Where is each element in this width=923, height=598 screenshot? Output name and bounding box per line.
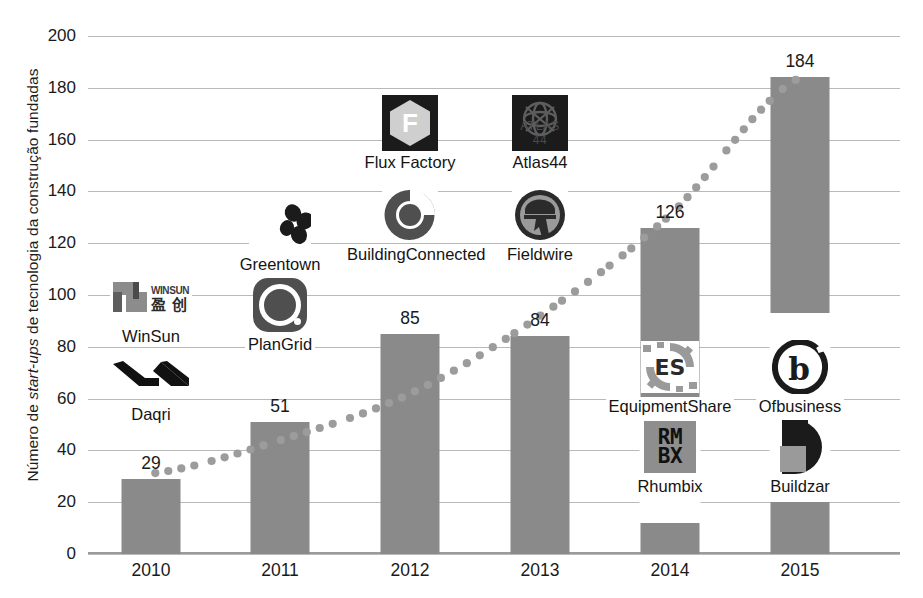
y-axis-tick-label: 0	[16, 544, 76, 564]
trend-dot	[329, 420, 337, 428]
bar-value-label: 85	[355, 308, 465, 329]
startup-chart: Número de start-ups de tecnologia da con…	[0, 0, 923, 598]
bar-value-label: 51	[225, 396, 335, 417]
bar-value-label: 84	[485, 310, 595, 331]
company-logo-ofbusiness: bOfbusiness	[734, 338, 866, 416]
trend-dot	[692, 183, 700, 191]
y-axis-tick-label: 40	[16, 440, 76, 460]
bar	[381, 334, 440, 554]
company-logo-caption: Rhumbix	[634, 477, 705, 496]
y-axis-tick-label: 60	[16, 389, 76, 409]
flux-factory-logo-icon: F	[344, 94, 476, 152]
plangrid-logo-icon	[214, 276, 346, 334]
y-axis-tick-label: 180	[16, 78, 76, 98]
trend-dot	[476, 351, 484, 359]
winsun-wordmark-en: WINSUN	[151, 285, 189, 296]
company-logo-plangrid: PlanGrid	[214, 276, 346, 354]
bar	[511, 336, 570, 554]
atlas44-logo-icon: ATLAS 44	[474, 94, 606, 152]
ofbusiness-logo-icon: b	[772, 340, 828, 394]
trend-dot	[208, 457, 216, 465]
rhumbix-logo-icon: RMBX	[644, 421, 696, 473]
company-logo-caption: Fieldwire	[504, 245, 576, 264]
x-axis-tick-label: 2012	[355, 560, 465, 581]
y-axis-tick-label: 80	[16, 337, 76, 357]
trend-dot	[709, 163, 717, 171]
flux-factory-logo-icon: F	[382, 95, 438, 151]
company-logo-equipmentshare: ESEquipmentShare	[604, 338, 736, 416]
trend-dot	[221, 453, 229, 461]
atlas44-logo-icon: ATLAS 44	[512, 95, 568, 151]
fieldwire-logo-icon	[474, 186, 606, 244]
bar-value-label: 184	[745, 51, 855, 72]
plot-area: 020406080100120140160180200 295185841261…	[88, 36, 900, 554]
bar	[251, 422, 310, 554]
winsun-logo-icon	[113, 282, 147, 312]
x-axis-tick-label: 2011	[225, 560, 335, 581]
x-axis-tick-label: 2014	[615, 560, 725, 581]
company-logo-caption: WinSun	[119, 327, 183, 346]
company-logo-greentown: Greentown	[214, 196, 346, 274]
trend-dot	[606, 262, 614, 270]
company-logo-atlas44: ATLAS 44Atlas44	[474, 94, 606, 172]
rhumbix-wordmark-line2: BX	[658, 444, 682, 468]
rhumbix-logo-icon: RMBX	[604, 418, 736, 476]
trend-dot	[558, 297, 566, 305]
company-logo-caption: EquipmentShare	[606, 397, 735, 416]
company-logo-buildzar: Buildzar	[734, 418, 866, 496]
bar-value-label: 126	[615, 202, 725, 223]
equipmentshare-logo-icon: ES	[604, 338, 736, 396]
trend-dot	[627, 244, 635, 252]
flux-factory-letter: F	[390, 100, 430, 146]
trend-dot	[584, 278, 592, 286]
company-logo-caption: Ofbusiness	[756, 397, 845, 416]
svg-text:ES: ES	[655, 355, 686, 380]
company-logo-caption: PlanGrid	[245, 335, 315, 354]
company-logo-rhumbix: RMBXRhumbix	[604, 418, 736, 496]
company-logo-buildingconnected: BuildingConnected	[344, 186, 476, 264]
trend-dot	[597, 268, 605, 276]
ofbusiness-logo-icon: b	[734, 338, 866, 396]
x-axis-tick-label: 2015	[745, 560, 855, 581]
fieldwire-logo-icon	[512, 187, 568, 243]
winsun-logo-icon: WINSUN盈 创	[85, 268, 217, 326]
greentown-logo-icon	[249, 199, 311, 251]
buildingconnected-logo-icon	[344, 186, 476, 244]
greentown-logo-icon	[214, 196, 346, 254]
trend-dot	[757, 106, 765, 114]
y-axis-tick-label: 120	[16, 233, 76, 253]
trend-dot	[502, 335, 510, 343]
company-logo-flux-factory: FFlux Factory	[344, 94, 476, 172]
trend-dot	[748, 115, 756, 123]
daqri-logo-icon	[85, 346, 217, 404]
trend-dot	[359, 409, 367, 417]
y-axis-tick-label: 20	[16, 492, 76, 512]
trend-dot	[722, 146, 730, 154]
gridline	[88, 36, 900, 37]
y-axis-tick-label: 100	[16, 285, 76, 305]
company-logo-fieldwire: Fieldwire	[474, 186, 606, 264]
buildzar-logo-icon	[776, 420, 824, 474]
trend-dot	[372, 404, 380, 412]
company-logo-caption: Greentown	[237, 255, 324, 274]
company-logo-daqri: Daqri	[85, 346, 217, 424]
daqri-logo-icon	[109, 358, 193, 392]
company-logo-caption: Flux Factory	[362, 153, 459, 172]
trend-dot	[701, 173, 709, 181]
trend-dot	[740, 125, 748, 133]
trend-dot	[683, 193, 691, 201]
trend-dot	[463, 359, 471, 367]
y-axis-tick-label: 200	[16, 26, 76, 46]
trend-dot	[619, 251, 627, 259]
company-logo-caption: Atlas44	[509, 153, 570, 172]
trend-dot	[450, 367, 458, 375]
plangrid-logo-icon	[253, 278, 307, 332]
y-axis-tick-label: 160	[16, 130, 76, 150]
buildingconnected-logo-icon	[382, 187, 438, 243]
x-axis-tick-label: 2013	[485, 560, 595, 581]
bar-value-label: 29	[96, 453, 206, 474]
equipmentshare-logo-icon: ES	[641, 341, 699, 393]
trend-dot	[316, 424, 324, 432]
company-logo-caption: Buildzar	[767, 477, 833, 496]
y-axis-tick-label: 140	[16, 181, 76, 201]
